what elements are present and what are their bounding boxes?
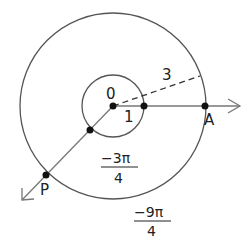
point-p-label: P: [40, 181, 49, 199]
outer-arc-numerator: −9π: [134, 204, 164, 220]
center-label: 0: [106, 85, 116, 103]
dashed-radius: [113, 76, 200, 106]
center-point: [110, 103, 117, 110]
inner-radius-label: 1: [124, 108, 134, 126]
inner-angle-denominator: 4: [114, 170, 123, 186]
angle-diagram: 0 1 3 A P −3π 4 −9π 4: [0, 0, 244, 238]
outer-radius-label: 3: [162, 66, 172, 84]
point-p: [43, 172, 50, 179]
inner-circle-point-ray: [87, 127, 94, 134]
inner-angle-numerator: −3π: [101, 150, 131, 166]
outer-arc-denominator: 4: [147, 223, 156, 238]
point-a-label: A: [204, 111, 215, 129]
point-a: [202, 103, 209, 110]
inner-circle-point-right: [141, 103, 148, 110]
terminal-ray: [22, 106, 113, 200]
